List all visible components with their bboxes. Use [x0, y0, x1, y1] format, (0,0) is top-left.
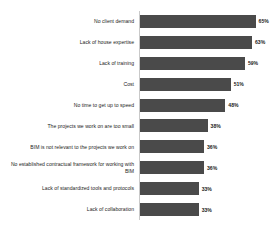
bar-value-label: 33%: [199, 186, 212, 192]
bar-track: 33%: [139, 199, 268, 220]
bar-track: 51%: [139, 74, 268, 95]
bar[interactable]: [140, 161, 204, 174]
category-label: Lack of house expertise: [4, 39, 139, 46]
bar[interactable]: [140, 203, 199, 216]
bar[interactable]: [140, 140, 204, 153]
bar[interactable]: [140, 182, 199, 195]
bar-track: 63%: [139, 32, 268, 53]
category-label: Lack of training: [4, 60, 139, 67]
bar[interactable]: [140, 15, 256, 28]
bar-value-label: 33%: [199, 207, 212, 213]
bar-value-label: 65%: [256, 18, 269, 24]
bar-track: 38%: [139, 116, 268, 137]
bar-row: Lack of standardized tools and protocols…: [4, 178, 268, 199]
bar-track: 48%: [139, 95, 268, 116]
bar-row: No time to get up to speed 48%: [4, 95, 268, 116]
bar-value-label: 38%: [208, 123, 221, 129]
bar[interactable]: [140, 57, 245, 70]
category-label: No time to get up to speed: [4, 102, 139, 109]
bar-chart: No client demand 65% Lack of house exper…: [0, 0, 272, 227]
bar-row: No client demand 65%: [4, 11, 268, 32]
bar-value-label: 51%: [231, 81, 244, 87]
bar-row: Lack of training 59%: [4, 53, 268, 74]
bar[interactable]: [140, 78, 231, 91]
category-label: The projects we work on are too small: [4, 123, 139, 130]
bar-value-label: 36%: [204, 144, 217, 150]
bar-value-label: 63%: [252, 39, 265, 45]
plot-area: No client demand 65% Lack of house exper…: [4, 11, 268, 220]
bar-track: 65%: [139, 11, 268, 32]
bar-row: Lack of collaboration 33%: [4, 199, 268, 220]
category-label: No client demand: [4, 18, 139, 25]
bar-row: BIM is not relevant to the projects we w…: [4, 136, 268, 157]
bar-row: Cost 51%: [4, 74, 268, 95]
bar-track: 36%: [139, 136, 268, 157]
bar[interactable]: [140, 119, 208, 132]
bar-value-label: 48%: [225, 102, 238, 108]
bar-row: No established contractual framework for…: [4, 157, 268, 178]
bar-row: Lack of house expertise 63%: [4, 32, 268, 53]
category-label: BIM is not relevant to the projects we w…: [4, 144, 139, 151]
bar-track: 59%: [139, 53, 268, 74]
bar[interactable]: [140, 99, 225, 112]
bar[interactable]: [140, 36, 252, 49]
bar-value-label: 59%: [245, 60, 258, 66]
category-label: No established contractual framework for…: [4, 161, 139, 174]
category-label: Cost: [4, 81, 139, 88]
bar-track: 36%: [139, 157, 268, 178]
bar-track: 33%: [139, 178, 268, 199]
bar-value-label: 36%: [204, 165, 217, 171]
bar-row: The projects we work on are too small 38…: [4, 116, 268, 137]
category-label: Lack of collaboration: [4, 206, 139, 213]
category-label: Lack of standardized tools and protocols: [4, 185, 139, 192]
